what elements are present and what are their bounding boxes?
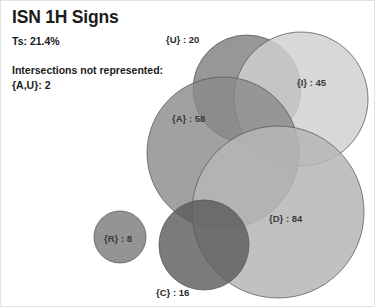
venn-circle-r[interactable]	[94, 211, 146, 263]
venn-svg	[1, 1, 375, 307]
venn-circle-c[interactable]	[159, 200, 249, 290]
venn-circle-group	[94, 32, 368, 298]
venn-diagram-page: ISN 1H Signs Ts: 21.4% Intersections not…	[0, 0, 375, 307]
